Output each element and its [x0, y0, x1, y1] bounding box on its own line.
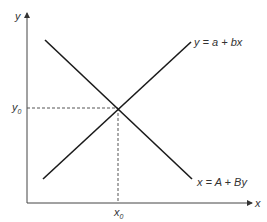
decreasing-line-label: x = A + By [196, 176, 248, 188]
line-increasing [43, 42, 191, 179]
y0-label: y0 [11, 101, 22, 115]
diagram-canvas: y x y = a + bx x = A + By y0 x0 [0, 0, 267, 222]
increasing-line-label: y = a + bx [193, 36, 243, 48]
y-axis-label: y [14, 10, 22, 22]
x0-label: x0 [113, 206, 124, 220]
x-axis-label: x [254, 197, 261, 209]
